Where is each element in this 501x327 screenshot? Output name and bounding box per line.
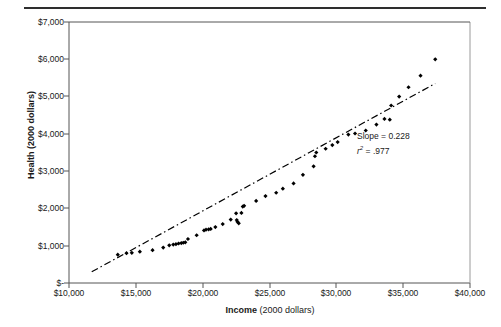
r-squared-annotation: r2 = .977 [357, 143, 410, 157]
data-point [301, 173, 305, 177]
data-point [150, 248, 154, 252]
data-point [313, 154, 317, 158]
axis-lines [69, 22, 470, 283]
data-point [382, 117, 386, 121]
data-point [330, 143, 334, 147]
data-point [336, 140, 340, 144]
data-point [130, 251, 134, 255]
data-point [346, 133, 350, 137]
data-point [254, 199, 258, 203]
data-point [388, 118, 392, 122]
data-point [433, 57, 437, 61]
data-point [397, 94, 401, 98]
data-point [213, 225, 217, 229]
data-point [389, 103, 393, 107]
data-point [374, 122, 378, 126]
data-point [161, 245, 165, 249]
data-point [186, 237, 190, 241]
data-point [314, 150, 318, 154]
trendline [92, 84, 436, 272]
y-axis-tick-marks [64, 22, 69, 283]
data-point [138, 250, 142, 254]
data-point-markers [116, 57, 438, 257]
data-point [406, 85, 410, 89]
data-point [263, 194, 267, 198]
data-point [124, 251, 128, 255]
slope-annotation: Slope = 0.228 [357, 131, 410, 143]
data-point [281, 187, 285, 191]
r-exponent: 2 [360, 145, 363, 151]
data-point [291, 181, 295, 185]
data-point [221, 222, 225, 226]
scatter-plot-canvas [0, 0, 501, 327]
data-point [418, 74, 422, 78]
data-point [167, 243, 171, 247]
data-point [229, 218, 233, 222]
r-value: = .977 [366, 145, 390, 155]
data-point [324, 147, 328, 151]
figure-container: FIGURE 1 Health (2000 dollars) $7,000 $6… [0, 0, 501, 327]
data-point [195, 233, 199, 237]
data-point [239, 211, 243, 215]
regression-annotation: Slope = 0.228 r2 = .977 [357, 131, 410, 157]
data-point [234, 211, 238, 215]
data-point [274, 191, 278, 195]
x-axis-tick-marks [69, 283, 470, 288]
data-point [312, 164, 316, 168]
